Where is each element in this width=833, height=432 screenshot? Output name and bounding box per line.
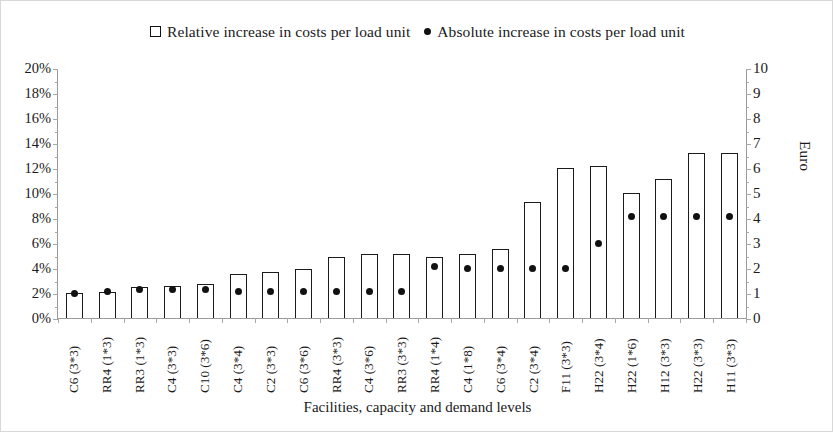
bar-group[interactable]	[93, 69, 122, 318]
y-axis-right-tick-label: 4	[753, 210, 761, 227]
x-axis-tick-label: H22 (3*4)	[592, 323, 605, 393]
y-axis-left-tick-label: 6%	[5, 235, 51, 252]
x-axis-tick-label: C4 (3*4)	[231, 323, 244, 393]
data-point-marker[interactable]	[202, 286, 209, 293]
x-axis-label-cell: RR4 (1*4)	[420, 323, 449, 393]
y-axis-right-tick-label: 9	[753, 85, 761, 102]
x-axis-label-cell: H22 (1*6)	[617, 323, 646, 393]
bar-group[interactable]	[322, 69, 351, 318]
bar[interactable]	[459, 254, 476, 318]
y-axis-right-tick-label: 5	[753, 185, 761, 202]
bar-group[interactable]	[256, 69, 285, 318]
y-axis-right-tick	[746, 307, 749, 308]
bar-group[interactable]	[387, 69, 416, 318]
y-axis-right-tick	[746, 219, 751, 220]
y-axis-left: 0%2%4%6%8%10%12%14%16%18%20%	[1, 69, 51, 319]
y-axis-left-tick	[55, 207, 58, 208]
y-axis-left-tick	[53, 119, 58, 120]
y-axis-left-tick-label: 0%	[5, 310, 51, 327]
x-axis-label-cell: H22 (3*4)	[584, 323, 613, 393]
bar-group[interactable]	[420, 69, 449, 318]
data-point-marker[interactable]	[235, 288, 242, 295]
x-axis-label-cell: RR3 (1*3)	[125, 323, 154, 393]
bar[interactable]	[492, 249, 509, 318]
y-axis-left-tick	[55, 232, 58, 233]
bar-series	[58, 69, 746, 318]
y-axis-left-tick-label: 20%	[5, 60, 51, 77]
data-point-marker[interactable]	[104, 288, 111, 295]
bar[interactable]	[623, 193, 640, 318]
data-point-marker[interactable]	[497, 265, 504, 272]
bar[interactable]	[688, 153, 705, 318]
y-axis-right-tick	[746, 282, 749, 283]
x-axis-tick-label: C6 (3*6)	[297, 323, 310, 393]
bar-group[interactable]	[617, 69, 646, 318]
data-point-marker[interactable]	[169, 286, 176, 293]
y-axis-right-tick	[746, 169, 751, 170]
bar[interactable]	[557, 168, 574, 318]
bar-group[interactable]	[518, 69, 547, 318]
x-axis-tick-label: RR4 (1*3)	[100, 323, 113, 393]
x-axis-label-cell: H11 (3*3)	[716, 323, 745, 393]
y-axis-left-tick	[53, 144, 58, 145]
bar-group[interactable]	[682, 69, 711, 318]
y-axis-right-tick-label: 2	[753, 260, 761, 277]
y-axis-left-tick	[53, 219, 58, 220]
x-axis-label-cell: C6 (3*6)	[289, 323, 318, 393]
x-axis-tick-label: C2 (3*4)	[527, 323, 540, 393]
y-axis-right-tick	[746, 269, 751, 270]
bar-group[interactable]	[158, 69, 187, 318]
data-point-marker[interactable]	[529, 265, 536, 272]
data-point-marker[interactable]	[366, 288, 373, 295]
y-axis-right-tick	[746, 244, 751, 245]
bar-group[interactable]	[584, 69, 613, 318]
y-axis-left-tick-label: 16%	[5, 110, 51, 127]
y-axis-left-tick	[53, 94, 58, 95]
bar[interactable]	[230, 274, 247, 318]
data-point-marker[interactable]	[562, 265, 569, 272]
y-axis-left-tick	[53, 169, 58, 170]
x-axis-label-cell: RR4 (1*3)	[92, 323, 121, 393]
data-point-marker[interactable]	[464, 265, 471, 272]
y-axis-right-tick	[746, 157, 749, 158]
bar-group[interactable]	[224, 69, 253, 318]
bar-group[interactable]	[486, 69, 515, 318]
bar[interactable]	[393, 254, 410, 318]
y-axis-left-tick	[53, 69, 58, 70]
y-axis-right-tick	[746, 294, 751, 295]
bar[interactable]	[99, 292, 116, 318]
x-axis-label-cell: RR4 (3*3)	[322, 323, 351, 393]
bar-group[interactable]	[60, 69, 89, 318]
bar-group[interactable]	[649, 69, 678, 318]
y-axis-right-tick	[746, 257, 749, 258]
data-point-marker[interactable]	[628, 213, 635, 220]
bar[interactable]	[655, 179, 672, 318]
y-axis-right-tick-label: 1	[753, 285, 761, 302]
bar-group[interactable]	[125, 69, 154, 318]
x-axis-label-cell: C10 (3*6)	[190, 323, 219, 393]
bar-group[interactable]	[453, 69, 482, 318]
x-axis-label-cell: C2 (3*4)	[519, 323, 548, 393]
bar-group[interactable]	[355, 69, 384, 318]
data-point-marker[interactable]	[71, 290, 78, 297]
y-axis-left-tick	[55, 307, 58, 308]
y-axis-left-tick	[55, 157, 58, 158]
y-axis-left-tick-label: 12%	[5, 160, 51, 177]
data-point-marker[interactable]	[595, 240, 602, 247]
bar[interactable]	[524, 202, 541, 318]
y-axis-left-tick-label: 10%	[5, 185, 51, 202]
bar-group[interactable]	[715, 69, 744, 318]
bar-group[interactable]	[289, 69, 318, 318]
y-axis-right-tick	[746, 119, 751, 120]
y-axis-left-tick	[55, 182, 58, 183]
y-axis-right-tick	[746, 182, 749, 183]
bar[interactable]	[361, 254, 378, 318]
y-axis-left-tick	[55, 82, 58, 83]
y-axis-left-tick	[55, 107, 58, 108]
bar[interactable]	[66, 293, 83, 318]
x-axis-tick-label: H22 (1*6)	[625, 323, 638, 393]
bar[interactable]	[721, 153, 738, 318]
bar-group[interactable]	[191, 69, 220, 318]
bar-group[interactable]	[551, 69, 580, 318]
y-axis-right-tick	[746, 207, 749, 208]
